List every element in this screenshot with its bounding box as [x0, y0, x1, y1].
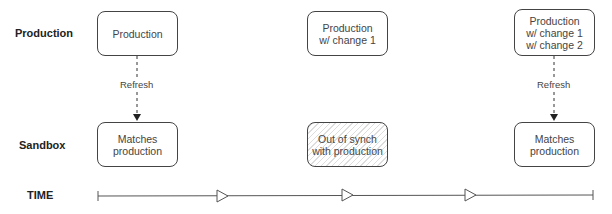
sandbox-box-2-out-of-sync: Out of synch with production	[307, 122, 388, 167]
refresh-label-1: Refresh	[120, 78, 153, 91]
production-box-3: Production w/ change 1 w/ change 2	[514, 9, 595, 56]
row-label-production: Production	[15, 27, 73, 39]
arrowhead-down-icon	[550, 114, 558, 121]
sandbox-box-1: Matches production	[97, 122, 178, 167]
row-label-time: TIME	[27, 189, 53, 201]
timeline-arrow-icon	[342, 189, 353, 201]
production-box-2: Production w/ change 1	[307, 11, 388, 56]
timeline-arrow-icon	[465, 189, 476, 201]
sandbox-box-3: Matches production	[514, 122, 595, 167]
refresh-label-3: Refresh	[537, 78, 570, 91]
row-label-sandbox: Sandbox	[19, 139, 65, 151]
production-box-1: Production	[97, 11, 178, 56]
timeline-arrow-icon	[217, 190, 228, 202]
arrowhead-down-icon	[133, 114, 141, 121]
